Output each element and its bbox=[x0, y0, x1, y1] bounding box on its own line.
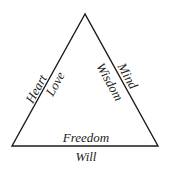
bottom-outer-label: Will bbox=[76, 149, 97, 164]
triangle-svg: Heart Love Mind Wisdom Freedom Will bbox=[0, 0, 170, 173]
bottom-inner-label: Freedom bbox=[62, 130, 109, 145]
left-inner-label: Love bbox=[42, 69, 68, 99]
triangle-diagram: Heart Love Mind Wisdom Freedom Will bbox=[0, 0, 170, 173]
